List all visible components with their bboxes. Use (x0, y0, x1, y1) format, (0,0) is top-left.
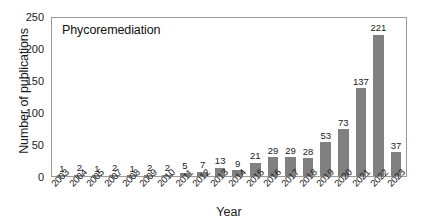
bar-value-label: 73 (338, 118, 349, 128)
y-tick-label: 200 (26, 43, 44, 55)
bar-value-label: 21 (250, 151, 261, 161)
bar-slot: 1 (88, 18, 106, 176)
y-tick-label: 50 (32, 139, 44, 151)
bar-slot: 29 (282, 18, 300, 176)
bar-value-label: 137 (353, 77, 369, 87)
bar-slot: 1 (123, 18, 141, 176)
bar-slot: 37 (387, 18, 405, 176)
bar-slot: 2 (159, 18, 177, 176)
plot-area: Phycoremediation 12121225713921292928537… (51, 17, 407, 177)
bar-value-label: 28 (303, 147, 314, 157)
y-tick-label: 100 (26, 107, 44, 119)
bar-value-label: 29 (285, 146, 296, 156)
bar (373, 35, 384, 176)
bar-slot: 29 (264, 18, 282, 176)
y-tick-label: 150 (26, 75, 44, 87)
bar-value-label: 29 (268, 146, 279, 156)
bar-slot: 5 (176, 18, 194, 176)
y-axis-tick-labels: 050100150200250 (0, 0, 48, 224)
bar-slot: 2 (71, 18, 89, 176)
bar-slot: 28 (299, 18, 317, 176)
chart-figure: Number of publications 050100150200250 P… (0, 0, 421, 224)
y-tick-label: 0 (38, 171, 44, 183)
bar-slot: 73 (335, 18, 353, 176)
bar-series: 12121225713921292928537313722137 (52, 18, 406, 176)
bar-slot: 221 (370, 18, 388, 176)
bar-value-label: 13 (215, 156, 226, 166)
bar-slot: 7 (194, 18, 212, 176)
bar-slot: 2 (106, 18, 124, 176)
bar-value-label: 53 (320, 131, 331, 141)
bar-slot: 137 (352, 18, 370, 176)
bar-slot: 53 (317, 18, 335, 176)
x-axis-title: Year (51, 205, 407, 219)
bar-value-label: 37 (391, 141, 402, 151)
bar-value-label: 221 (371, 23, 387, 33)
bar-slot: 1 (53, 18, 71, 176)
bar-slot: 13 (211, 18, 229, 176)
bar-slot: 2 (141, 18, 159, 176)
bar-slot: 9 (229, 18, 247, 176)
bar (356, 88, 367, 176)
bar-slot: 21 (247, 18, 265, 176)
y-tick-label: 250 (26, 11, 44, 23)
